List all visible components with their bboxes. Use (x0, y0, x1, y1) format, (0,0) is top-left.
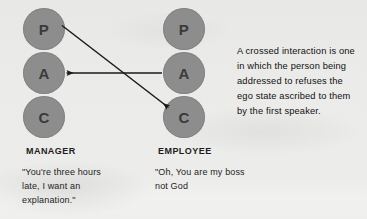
manager-child-circle[interactable]: C (23, 96, 65, 138)
ego-state-label: C (38, 110, 49, 125)
manager-adult-circle[interactable]: A (23, 52, 65, 94)
employee-adult-circle[interactable]: A (163, 52, 205, 94)
diagram-canvas: P A C P A C (0, 0, 367, 219)
ego-state-label: P (179, 22, 189, 37)
employee-quote: "Oh, You are my boss not God (155, 166, 250, 194)
stimulus-arrow-line (62, 26, 169, 108)
ego-state-label: A (178, 66, 189, 81)
manager-column: P A C (23, 8, 65, 138)
ego-state-label: P (39, 22, 49, 37)
employee-parent-circle[interactable]: P (163, 8, 205, 50)
employee-child-circle[interactable]: C (163, 96, 205, 138)
manager-quote: "You're three hours late, I want an expl… (22, 166, 117, 208)
employee-column: P A C (163, 8, 205, 138)
manager-parent-circle[interactable]: P (23, 8, 65, 50)
employee-role-label: EMPLOYEE (158, 146, 212, 156)
crossed-interaction-description: A crossed interaction is one in which th… (237, 44, 355, 119)
manager-role-label: MANAGER (26, 146, 76, 156)
ego-state-label: C (178, 110, 189, 125)
ego-state-label: A (38, 66, 49, 81)
